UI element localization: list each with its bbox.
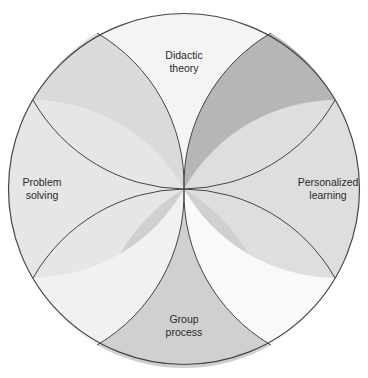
label-problem-solving: Problem solving bbox=[0, 176, 87, 202]
label-line: process bbox=[139, 326, 229, 339]
label-personalized-learning: Personalized learning bbox=[283, 176, 368, 202]
label-group-process: Group process bbox=[139, 313, 229, 339]
label-didactic-theory: Didactic theory bbox=[139, 49, 229, 75]
label-line: theory bbox=[139, 62, 229, 75]
label-line: learning bbox=[283, 189, 368, 202]
label-line: Personalized bbox=[283, 176, 368, 189]
label-line: solving bbox=[0, 189, 87, 202]
label-line: Group bbox=[139, 313, 229, 326]
label-line: Didactic bbox=[139, 49, 229, 62]
label-line: Problem bbox=[0, 176, 87, 189]
